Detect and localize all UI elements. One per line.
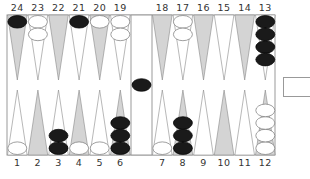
backgammon-board (0, 0, 310, 179)
point-label-9: 9 (194, 157, 214, 168)
black-checker[interactable] (111, 142, 130, 155)
point-label-2: 2 (28, 157, 48, 168)
white-checker[interactable] (256, 117, 275, 130)
point-label-13: 13 (255, 2, 275, 13)
point-label-22: 22 (49, 2, 69, 13)
black-checker[interactable] (49, 142, 68, 155)
point-label-7: 7 (152, 157, 172, 168)
white-checker[interactable] (173, 28, 192, 41)
point-label-15: 15 (214, 2, 234, 13)
point-label-3: 3 (49, 157, 69, 168)
white-checker[interactable] (256, 142, 275, 155)
black-checker[interactable] (173, 129, 192, 142)
white-checker[interactable] (70, 142, 89, 155)
white-checker[interactable] (173, 15, 192, 28)
white-checker[interactable] (90, 142, 109, 155)
black-checker[interactable] (111, 117, 130, 130)
white-checker[interactable] (90, 15, 109, 28)
black-checker[interactable] (70, 15, 89, 28)
point-label-8: 8 (173, 157, 193, 168)
black-checker[interactable] (8, 15, 27, 28)
black-checker[interactable] (256, 53, 275, 66)
black-checker[interactable] (49, 129, 68, 142)
point-label-6: 6 (110, 157, 130, 168)
point-label-16: 16 (194, 2, 214, 13)
point-label-14: 14 (235, 2, 255, 13)
point-label-20: 20 (90, 2, 110, 13)
white-checker[interactable] (111, 15, 130, 28)
point-label-12: 12 (255, 157, 275, 168)
black-checker[interactable] (256, 28, 275, 41)
point-label-23: 23 (28, 2, 48, 13)
black-checker[interactable] (173, 142, 192, 155)
point-label-11: 11 (235, 157, 255, 168)
bar-black-checker[interactable] (132, 79, 151, 92)
point-label-21: 21 (69, 2, 89, 13)
point-label-18: 18 (152, 2, 172, 13)
point-label-1: 1 (7, 157, 27, 168)
white-checker[interactable] (28, 15, 47, 28)
point-label-19: 19 (110, 2, 130, 13)
white-checker[interactable] (111, 28, 130, 41)
white-checker[interactable] (256, 129, 275, 142)
white-checker[interactable] (8, 142, 27, 155)
doubling-cube-area[interactable] (283, 77, 310, 97)
point-label-17: 17 (173, 2, 193, 13)
black-checker[interactable] (256, 15, 275, 28)
point-label-24: 24 (7, 2, 27, 13)
point-label-4: 4 (69, 157, 89, 168)
black-checker[interactable] (173, 117, 192, 130)
white-checker[interactable] (28, 28, 47, 41)
black-checker[interactable] (256, 41, 275, 54)
black-checker[interactable] (111, 129, 130, 142)
point-label-5: 5 (90, 157, 110, 168)
white-checker[interactable] (256, 104, 275, 117)
point-label-10: 10 (214, 157, 234, 168)
white-checker[interactable] (153, 142, 172, 155)
